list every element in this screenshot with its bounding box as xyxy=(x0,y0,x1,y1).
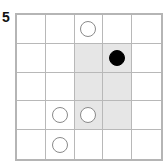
board-cell-r1-c0[interactable] xyxy=(17,44,46,73)
board-cell-r0-c2[interactable] xyxy=(75,15,104,44)
puzzle-number: 5 xyxy=(2,10,10,24)
board-cell-r1-c2[interactable] xyxy=(75,44,104,73)
board-cell-r1-c1[interactable] xyxy=(46,44,75,73)
board-cell-r0-c3[interactable] xyxy=(103,15,132,44)
white-stone xyxy=(80,107,96,123)
board-cell-r4-c2[interactable] xyxy=(75,130,104,159)
board-cell-r1-c4[interactable] xyxy=(132,44,161,73)
board-cell-r2-c2[interactable] xyxy=(75,73,104,102)
board-cell-r2-c0[interactable] xyxy=(17,73,46,102)
white-stone xyxy=(52,137,68,153)
board-cell-r1-c3[interactable] xyxy=(103,44,132,73)
white-stone xyxy=(52,107,68,123)
board-cell-r4-c3[interactable] xyxy=(103,130,132,159)
board-cell-r4-c1[interactable] xyxy=(46,130,75,159)
board-cell-r0-c0[interactable] xyxy=(17,15,46,44)
board-cell-r2-c3[interactable] xyxy=(103,73,132,102)
board-cell-r4-c0[interactable] xyxy=(17,130,46,159)
board-cell-r0-c4[interactable] xyxy=(132,15,161,44)
game-board xyxy=(15,13,163,161)
board-cell-r3-c3[interactable] xyxy=(103,101,132,130)
board-cell-r3-c1[interactable] xyxy=(46,101,75,130)
black-stone xyxy=(109,50,125,66)
white-stone xyxy=(80,21,96,37)
board-cell-r2-c4[interactable] xyxy=(132,73,161,102)
board-cell-r0-c1[interactable] xyxy=(46,15,75,44)
board-cell-r4-c4[interactable] xyxy=(132,130,161,159)
board-cell-r3-c4[interactable] xyxy=(132,101,161,130)
board-cell-r2-c1[interactable] xyxy=(46,73,75,102)
board-cell-r3-c0[interactable] xyxy=(17,101,46,130)
board-cell-r3-c2[interactable] xyxy=(75,101,104,130)
